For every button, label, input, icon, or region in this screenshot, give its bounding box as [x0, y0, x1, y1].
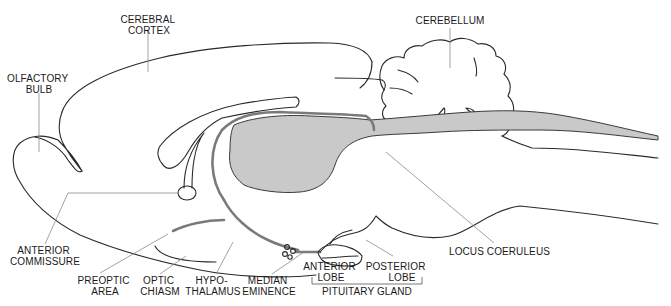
leader-optic-chiasm	[160, 256, 186, 274]
label-hypothalamus: HYPO- THALAMUS	[185, 275, 240, 297]
label-optic-chiasm: OPTIC CHIASM	[140, 275, 180, 297]
median-eminence-cells	[283, 245, 296, 260]
label-cerebellum: CEREBELLUM	[416, 15, 485, 26]
label-cerebral-cortex: CEREBRAL CORTEX	[120, 14, 177, 36]
leader-posterior-lobe	[366, 240, 393, 256]
label-preoptic-area: PREOPTIC AREA	[78, 275, 133, 297]
label-posterior-lobe: POSTERIOR LOBE	[366, 261, 429, 283]
leader-locus-coeruleus	[386, 152, 494, 243]
label-median-eminence: MEDIAN EMINENCE	[242, 275, 296, 297]
fornix-outline	[184, 133, 204, 188]
label-pituitary-gland: PITUITARY GLAND	[322, 286, 412, 297]
label-anterior-commissure: ANTERIOR COMMISSURE	[10, 245, 80, 267]
cerebral-cortex-outline	[62, 43, 372, 112]
optic-chiasm-outline	[155, 246, 216, 262]
pituitary-division	[322, 256, 358, 258]
olfactory-bulb-lower	[35, 137, 82, 172]
anterior-commissure-shape	[178, 186, 196, 200]
cerebellum-tail	[502, 136, 658, 158]
preoptic-tract	[173, 220, 224, 231]
label-locus-coeruleus: LOCUS COERULEUS	[449, 246, 550, 257]
cerebellum-fold-1	[398, 70, 418, 82]
leader-anterior-commissure	[45, 193, 178, 244]
leader-preoptic-area	[100, 234, 168, 273]
cerebellum-fold-2	[390, 88, 412, 94]
fiber-tract-ventral	[224, 200, 298, 250]
label-olfactory-bulb: OLFACTORY BULB	[7, 73, 71, 95]
leader-hypothalamus	[216, 242, 233, 274]
cortex-posterior-edge	[360, 62, 372, 88]
brain-sagittal-diagram: CEREBRAL CORTEX CEREBELLUM OLFACTORY BUL…	[0, 0, 671, 306]
cerebellum-fold-3	[474, 58, 477, 76]
